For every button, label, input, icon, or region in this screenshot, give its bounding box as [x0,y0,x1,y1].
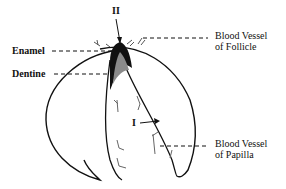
bv-follicle-label-line1: Blood Vessel [215,31,267,41]
follicle-outline [46,50,118,180]
marker-one-label: I [132,118,136,128]
bv-papilla-label-line1: Blood Vessel [215,139,267,149]
papilla-vessel-sprigs [114,96,172,168]
bv-papilla-label-line2: of Papilla [215,150,254,160]
dentine-label: Dentine [12,69,45,79]
marker-two-label: II [112,6,120,16]
enamel-label: Enamel [12,46,45,56]
tooth-diagram: II I Enamel Dentine Blood Vessel of Foll… [0,0,286,189]
tooth-drawing [0,0,286,189]
bv-follicle-label-line2: of Follicle [215,42,256,52]
